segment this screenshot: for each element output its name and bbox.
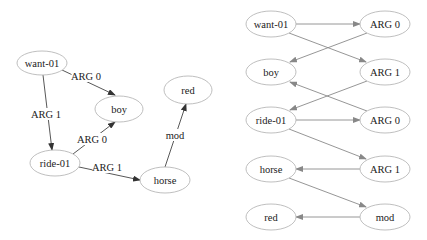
edge-want-ride: ARG 1 (31, 75, 61, 150)
edge-horse-red: mod (165, 104, 186, 167)
edge-arrow (290, 81, 367, 110)
node-r_boy: boy (246, 59, 296, 85)
node-label: horse (154, 175, 177, 186)
edge-ride-boy: ARG 0 (73, 122, 115, 154)
edge-r_ride-r_arg1b (289, 129, 366, 159)
node-want: want-01 (17, 51, 67, 75)
edge-r_horse-r_mod (289, 178, 366, 207)
node-r_mod: mod (360, 204, 410, 230)
edge-arrow (289, 178, 366, 207)
node-label: ride-01 (256, 115, 286, 126)
edge-label: mod (166, 130, 185, 141)
node-label: boy (263, 67, 280, 78)
node-r_red: red (246, 204, 296, 230)
node-r_arg1a: ARG 1 (360, 59, 410, 85)
node-label: red (181, 85, 195, 96)
node-label: ARG 1 (370, 164, 400, 175)
edge-r_arg0b-r_boy (290, 82, 367, 111)
node-label: boy (111, 104, 128, 115)
edge-want-boy: ARG 0 (62, 70, 115, 95)
node-r_arg1b: ARG 1 (360, 156, 410, 182)
edge-label: ARG 0 (77, 134, 107, 145)
node-r_ride: ride-01 (246, 107, 296, 133)
node-boy: boy (95, 96, 143, 122)
node-r_arg0b: ARG 0 (360, 107, 410, 133)
node-ride: ride-01 (30, 150, 80, 176)
edge-arrow (290, 82, 367, 111)
edge-arrow (289, 129, 366, 159)
edge-ride-horse: ARG 1 (79, 161, 140, 180)
node-horse: horse (140, 167, 190, 193)
node-label: ride-01 (40, 158, 70, 169)
node-label: horse (260, 164, 283, 175)
edge-r_arg1a-r_ride (290, 81, 367, 110)
node-label: mod (376, 212, 395, 223)
edge-label: ARG 0 (71, 71, 101, 82)
node-r_horse: horse (246, 156, 296, 182)
node-label: want-01 (254, 19, 288, 30)
node-label: ARG 1 (370, 67, 400, 78)
node-red: red (164, 76, 212, 104)
node-label: ARG 0 (370, 115, 400, 126)
node-r_arg0a: ARG 0 (360, 11, 410, 37)
amr-graph-canvas: ARG 0ARG 1ARG 0ARG 1mod want-01boyride-0… (0, 0, 427, 240)
node-label: red (264, 212, 278, 223)
right-graph-edges (289, 24, 367, 217)
edge-label: ARG 1 (31, 109, 61, 120)
edge-label: ARG 1 (92, 162, 122, 173)
node-label: want-01 (25, 58, 59, 69)
node-r_want: want-01 (246, 11, 296, 37)
right-graph-nodes: want-01ARG 0boyARG 1ride-01ARG 0horseARG… (246, 11, 410, 230)
node-label: ARG 0 (370, 19, 400, 30)
